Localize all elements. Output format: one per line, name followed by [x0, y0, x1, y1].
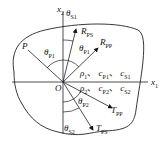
- point-p-label: P: [22, 42, 28, 51]
- angle-arc-reflected-p: [63, 60, 79, 67]
- r-pp-label: RPP: [100, 38, 112, 49]
- angle-arc-transmitted-s: [63, 108, 79, 112]
- angle-arc-reflected-s: [63, 40, 73, 41]
- medium1-properties: ρ1、 cP1、 cS1: [80, 69, 131, 80]
- t-ps-label: TPS: [96, 124, 108, 135]
- angle-arc-incident: [47, 60, 63, 68]
- theta-p1-reflected-label: θP1: [79, 44, 90, 55]
- theta-s1-label: θS1: [66, 9, 77, 20]
- medium2-properties: ρ2、 cP2、 cS2: [80, 84, 131, 95]
- t-pp-label: TPP: [111, 106, 123, 117]
- r-ps-label: RPS: [81, 27, 93, 38]
- theta-p2-label: θP2: [78, 97, 89, 108]
- theta-p1-incident-label: θP1: [44, 48, 55, 59]
- x1-axis-label: x1: [151, 78, 158, 89]
- origin-label: O: [55, 84, 62, 93]
- reflected-ps-ray: [63, 29, 76, 82]
- theta-s2-label: θS2: [64, 124, 75, 135]
- x2-axis-label: x2: [57, 5, 64, 16]
